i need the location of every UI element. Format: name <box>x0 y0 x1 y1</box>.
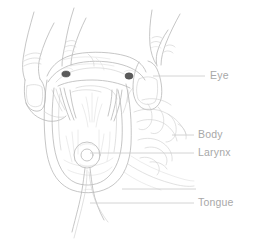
label-eye: Eye <box>210 69 229 81</box>
illustration-figure: Eye Body Larynx Tongue <box>0 0 261 250</box>
label-body: Body <box>198 128 223 140</box>
snake-mouth-interior-group <box>52 80 130 127</box>
label-tongue: Tongue <box>198 196 234 208</box>
snake-body-group <box>124 99 194 190</box>
larynx-inner-opening <box>81 149 93 161</box>
label-larynx: Larynx <box>198 146 231 158</box>
snake-lower-jaw-group <box>44 80 131 193</box>
leader-lines-group <box>90 76 205 203</box>
snake-larynx-group <box>74 142 100 168</box>
snake-oral-anatomy-illustration: Eye Body Larynx Tongue <box>0 0 261 250</box>
labels-group: Eye Body Larynx Tongue <box>198 69 234 208</box>
larynx-outer-ring <box>74 142 100 168</box>
snake-eye-left <box>62 71 70 77</box>
snake-eye-right <box>125 73 133 79</box>
snake-upper-jaw-group <box>47 52 146 82</box>
